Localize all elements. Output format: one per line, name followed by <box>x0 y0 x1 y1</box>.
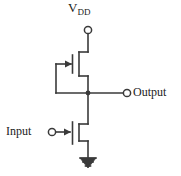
output-junction-dot <box>86 91 91 96</box>
input-label: Input <box>6 125 31 137</box>
driver-gate-arrow-icon <box>64 129 71 136</box>
supply-label: VDD <box>68 1 90 14</box>
load-gate-arrow-icon <box>65 61 72 68</box>
output-label: Output <box>133 86 166 98</box>
supply-label-text: V <box>68 0 77 15</box>
vdd-terminal-circle-icon[interactable] <box>84 26 91 33</box>
ground-triangle-icon <box>80 158 96 168</box>
input-terminal-circle-icon[interactable] <box>48 128 55 135</box>
output-terminal-circle-icon[interactable] <box>123 89 130 96</box>
circuit-diagram-canvas: VDD Output Input <box>0 0 181 176</box>
supply-label-subscript: DD <box>77 7 90 17</box>
